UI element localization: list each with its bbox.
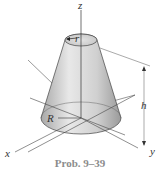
- y-label: y: [149, 145, 155, 157]
- R-label: R: [46, 112, 54, 124]
- figure-caption: Prob. 9–39: [0, 157, 160, 169]
- z-label: z: [77, 0, 83, 11]
- frustum-diagram: z r R h x y: [0, 0, 160, 175]
- h-arrow-top-icon: [142, 66, 146, 71]
- h-arrow-bottom-icon: [142, 141, 146, 146]
- h-extension-line: [100, 48, 150, 66]
- h-label: h: [141, 99, 147, 111]
- r-label: r: [75, 32, 80, 44]
